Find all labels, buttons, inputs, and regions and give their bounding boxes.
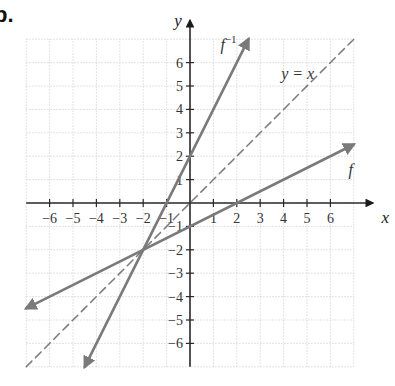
y-tick-label: −2 bbox=[168, 243, 183, 258]
graph-plot: −6−5−4−3−2−1123456−6−5−4−3−2−1123456 xyf… bbox=[0, 0, 395, 386]
y-tick-label: −4 bbox=[168, 290, 183, 305]
y-tick-label: 2 bbox=[176, 149, 183, 164]
y-tick-label: 4 bbox=[176, 102, 183, 117]
y-tick-label: 6 bbox=[176, 56, 183, 71]
x-tick-label: −4 bbox=[89, 211, 104, 226]
x-tick-label: −5 bbox=[66, 211, 81, 226]
x-tick-label: 5 bbox=[304, 211, 311, 226]
x-tick-label: −3 bbox=[112, 211, 127, 226]
identity-line-label: y = x bbox=[279, 65, 314, 83]
f-inverse-label: f−1 bbox=[220, 33, 236, 54]
f-label: f bbox=[348, 161, 355, 179]
x-tick-label: −6 bbox=[42, 211, 57, 226]
y-tick-label: −3 bbox=[168, 266, 183, 281]
x-axis-title: x bbox=[381, 208, 390, 227]
x-tick-label: 3 bbox=[257, 211, 264, 226]
x-tick-label: 2 bbox=[233, 211, 240, 226]
x-tick-label: −2 bbox=[136, 211, 151, 226]
y-tick-label: 3 bbox=[176, 126, 183, 141]
y-tick-label: −5 bbox=[168, 313, 183, 328]
x-tick-label: 6 bbox=[327, 211, 334, 226]
y-axis-title: y bbox=[172, 11, 182, 30]
y-tick-label: 5 bbox=[176, 79, 183, 94]
labels: xyf−1y = xf bbox=[172, 11, 389, 227]
x-tick-label: 4 bbox=[280, 211, 287, 226]
y-tick-label: −6 bbox=[168, 336, 183, 351]
